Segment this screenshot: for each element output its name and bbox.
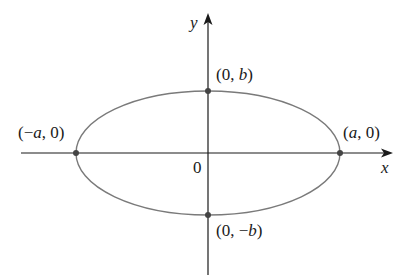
bottom-vertex-label: (0, −b) bbox=[216, 222, 262, 239]
right-vertex-label: (a, 0) bbox=[343, 124, 380, 141]
top-vertex-label: (0, b) bbox=[216, 66, 253, 83]
ellipse-diagram: y x 0 (a, 0) (−a, 0) (0, b) (0, −b) bbox=[0, 0, 405, 275]
y-axis-label: y bbox=[190, 14, 198, 31]
left-vertex-point bbox=[73, 150, 79, 156]
origin-label: 0 bbox=[193, 159, 202, 176]
right-vertex-point bbox=[337, 150, 343, 156]
bottom-vertex-point bbox=[205, 212, 211, 218]
left-vertex-label: (−a, 0) bbox=[18, 124, 64, 141]
x-axis-label: x bbox=[381, 159, 389, 176]
top-vertex-point bbox=[205, 88, 211, 94]
